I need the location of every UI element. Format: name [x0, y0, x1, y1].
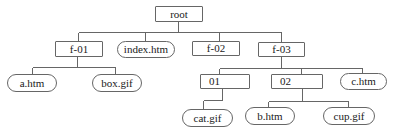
node-f-02: f-02: [192, 41, 240, 56]
node-cup-gif: cup.gif: [323, 107, 375, 125]
node-f-03: f-03: [258, 42, 305, 57]
tree-diagram: rootf-01index.htmf-02f-03a.htmbox.gif010…: [0, 0, 395, 133]
node-root: root: [155, 6, 203, 22]
node-c-htm: c.htm: [340, 73, 387, 90]
node-index-htm: index.htm: [117, 41, 175, 58]
node-a-htm: a.htm: [7, 74, 57, 92]
node-f-01: f-01: [55, 41, 103, 57]
node-box-gif: box.gif: [92, 74, 142, 92]
node-02: 02: [271, 74, 323, 89]
node-01: 01: [200, 74, 250, 89]
node-cat-gif: cat.gif: [182, 109, 233, 127]
node-b-htm: b.htm: [245, 107, 295, 125]
